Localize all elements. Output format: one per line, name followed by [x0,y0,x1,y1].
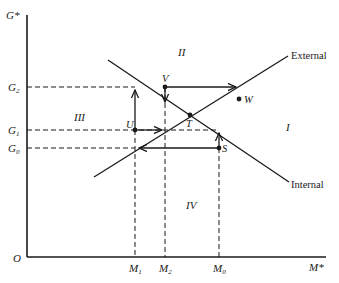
point-t-label: T [186,118,193,129]
point-v [163,85,168,90]
region-iv-label: IV [185,199,198,211]
g1-tick-label: G1 [8,124,19,138]
origin-label: O [13,252,21,264]
point-v-label: V [162,73,170,84]
point-w [237,97,242,102]
x-axis-label: M* [308,261,324,273]
point-s-label: S [222,143,228,154]
m2-tick-label: M2 [158,262,172,276]
region-ii-label: II [177,46,187,58]
external-line-label: External [291,50,327,61]
point-t [188,113,193,118]
internal-line-label: Internal [291,179,324,190]
m0-tick-label: M0 [212,262,226,276]
g0-tick-label: G0 [8,142,20,156]
point-s [217,146,222,151]
point-w-label: W [244,94,254,105]
m1-tick-label: M1 [128,262,142,276]
region-i-label: I [285,121,291,133]
policy-assignment-diagram: G* M* O G2 G1 G0 M1 M2 M0 External Inter… [0,0,339,283]
g2-tick-label: G2 [8,81,20,95]
region-iii-label: III [73,111,86,123]
y-axis-label: G* [6,9,20,21]
